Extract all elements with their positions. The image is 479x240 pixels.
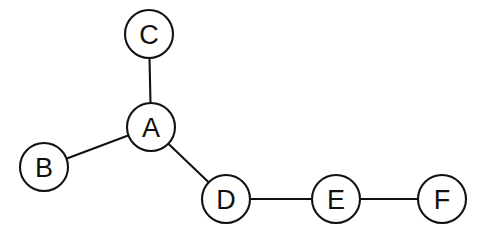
graph-node-a[interactable]: A: [127, 103, 175, 151]
graph-node-label-f: F: [434, 185, 451, 215]
graph-node-label-e: E: [327, 185, 345, 215]
graph-edge-a-d: [168, 143, 210, 183]
node-layer: CABDEF: [20, 10, 466, 223]
graph-node-d[interactable]: D: [202, 175, 250, 223]
graph-edge-c-a: [149, 57, 150, 104]
graph-node-f[interactable]: F: [418, 175, 466, 223]
edge-layer: [66, 57, 419, 199]
graph-node-e[interactable]: E: [312, 175, 360, 223]
graph-node-c[interactable]: C: [125, 10, 173, 58]
diagram-canvas: CABDEF: [0, 0, 479, 240]
graph-svg: CABDEF: [0, 0, 479, 240]
graph-node-label-d: D: [216, 185, 236, 215]
graph-edge-b-a: [66, 135, 130, 159]
graph-node-label-a: A: [142, 113, 160, 143]
graph-node-label-c: C: [139, 20, 159, 50]
graph-node-label-b: B: [35, 153, 53, 183]
graph-node-b[interactable]: B: [20, 143, 68, 191]
